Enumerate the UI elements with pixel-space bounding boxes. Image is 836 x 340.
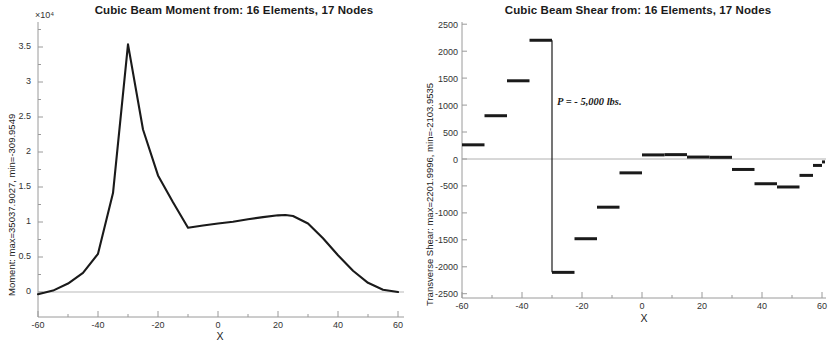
moment-xtick--60: -60 bbox=[22, 320, 54, 330]
moment-xtick-0: 0 bbox=[202, 320, 234, 330]
moment-figure: Cubic Beam Moment from: 16 Elements, 17 … bbox=[0, 0, 420, 340]
shear-step-segments bbox=[462, 40, 825, 272]
shear-xtick-20: 20 bbox=[686, 301, 718, 311]
moment-xtick--40: -40 bbox=[82, 320, 114, 330]
shear-xtick--40: -40 bbox=[506, 301, 538, 311]
moment-curve bbox=[38, 44, 398, 294]
moment-xtick-20: 20 bbox=[262, 320, 294, 330]
shear-y-ticks bbox=[462, 24, 467, 294]
shear-figure: Cubic Beam Shear from: 16 Elements, 17 N… bbox=[420, 0, 836, 340]
moment-y-ticks bbox=[38, 30, 43, 293]
moment-x-axis-title: X bbox=[190, 330, 250, 340]
shear-load-annotation: P = - 5,000 lbs. bbox=[557, 96, 622, 107]
shear-x-ticks bbox=[462, 292, 822, 298]
shear-xtick--60: -60 bbox=[446, 301, 478, 311]
shear-x-axis-title: X bbox=[614, 312, 674, 324]
figure-row: Cubic Beam Moment from: 16 Elements, 17 … bbox=[0, 0, 836, 340]
moment-plot-area bbox=[0, 0, 420, 340]
shear-plot-area bbox=[420, 0, 836, 340]
shear-xtick-60: 60 bbox=[806, 301, 836, 311]
moment-x-ticks bbox=[38, 311, 398, 317]
shear-xtick-40: 40 bbox=[746, 301, 778, 311]
shear-xtick--20: -20 bbox=[566, 301, 598, 311]
moment-xtick--20: -20 bbox=[142, 320, 174, 330]
moment-xtick-40: 40 bbox=[322, 320, 354, 330]
moment-xtick-60: 60 bbox=[382, 320, 414, 330]
shear-xtick-0: 0 bbox=[626, 301, 658, 311]
